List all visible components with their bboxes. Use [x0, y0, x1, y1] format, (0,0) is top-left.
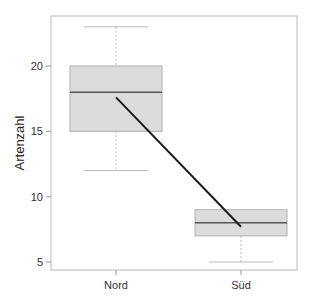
y-axis: 5101520 — [31, 60, 51, 268]
y-tick-label: 20 — [31, 60, 43, 72]
y-tick-label: 5 — [37, 256, 43, 268]
x-tick-label: Nord — [104, 279, 128, 291]
y-axis-title: Artenzahl — [12, 115, 27, 170]
boxplot-chart: 5101520 NordSüd Artenzahl — [0, 0, 311, 301]
x-axis: NordSüd — [104, 270, 251, 291]
y-tick-label: 10 — [31, 191, 43, 203]
x-tick-label: Süd — [231, 279, 251, 291]
y-tick-label: 15 — [31, 125, 43, 137]
